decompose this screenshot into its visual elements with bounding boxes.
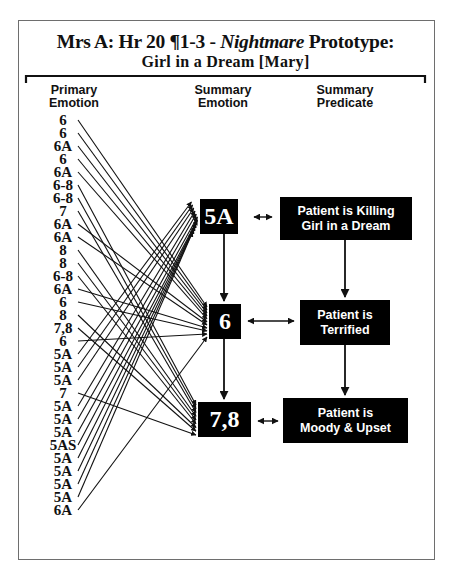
summary-predicate-terrified: Patient isTerrified bbox=[300, 300, 390, 345]
header-summary-predicate: Summary Predicate bbox=[305, 84, 385, 110]
header-primary-emotion: Primary Emotion bbox=[44, 84, 104, 110]
summary-emotion-5A: 5A bbox=[200, 199, 238, 234]
predicate-line: Patient is bbox=[317, 308, 373, 323]
header-line: Emotion bbox=[188, 97, 258, 110]
connector-line bbox=[78, 393, 196, 435]
connector-line bbox=[78, 328, 196, 431]
summary-predicate-moody: Patient isMoody & Upset bbox=[283, 398, 408, 443]
header-line: Emotion bbox=[44, 97, 104, 110]
connector-line bbox=[78, 120, 207, 307]
predicate-line: Patient is bbox=[300, 406, 391, 421]
header-summary-emotion: Summary Emotion bbox=[188, 84, 258, 110]
connector-line bbox=[78, 214, 196, 419]
summary-emotion-7-8: 7,8 bbox=[198, 402, 251, 437]
summary-predicate-killing: Patient is KillingGirl in a Dream bbox=[280, 197, 412, 240]
connector-line bbox=[78, 172, 207, 319]
connector-line bbox=[78, 276, 196, 424]
connector-line bbox=[78, 237, 207, 325]
connector-line bbox=[78, 232, 193, 497]
summary-emotion-6: 6 bbox=[209, 304, 241, 339]
predicate-line: Patient is Killing bbox=[297, 204, 394, 219]
header-line: Predicate bbox=[305, 97, 385, 110]
connector-line bbox=[78, 229, 194, 484]
primary-emotion-list: 666A66A6-86-876A6A886-86A687,865A5A5A75A… bbox=[40, 114, 86, 517]
header-bracket bbox=[26, 76, 425, 83]
connector-line bbox=[78, 211, 196, 413]
predicate-line: Moody & Upset bbox=[300, 421, 391, 436]
predicate-line: Girl in a Dream bbox=[297, 219, 394, 234]
primary-emotion-item: 6A bbox=[40, 504, 86, 517]
predicate-line: Terrified bbox=[317, 323, 373, 338]
